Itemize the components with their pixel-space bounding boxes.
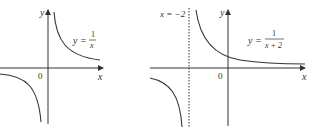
x-axis-label: x <box>301 71 307 82</box>
chart-shifted-reciprocal: y x 0 x = −2 y = 1 x + 2 <box>150 7 307 128</box>
svg-text:x: x <box>89 41 94 50</box>
curve-lower-branch <box>150 78 182 127</box>
origin-label: 0 <box>218 71 223 81</box>
svg-text:x + 2: x + 2 <box>264 41 282 50</box>
equation-label: y = 1 x <box>72 30 96 50</box>
y-axis-label: y <box>39 7 45 18</box>
equation-label: y = 1 x + 2 <box>247 29 284 50</box>
svg-text:1: 1 <box>272 29 276 38</box>
svg-text:1: 1 <box>91 30 95 39</box>
y-axis-label: y <box>219 7 225 18</box>
svg-text:y =: y = <box>72 35 87 46</box>
x-axis-label: x <box>97 71 103 82</box>
chart-reciprocal: y x 0 y = 1 x <box>0 7 103 124</box>
svg-text:y =: y = <box>247 35 262 46</box>
asymptote-label: x = −2 <box>159 9 186 19</box>
origin-label: 0 <box>38 71 43 81</box>
curve-lower-branch <box>0 74 41 122</box>
